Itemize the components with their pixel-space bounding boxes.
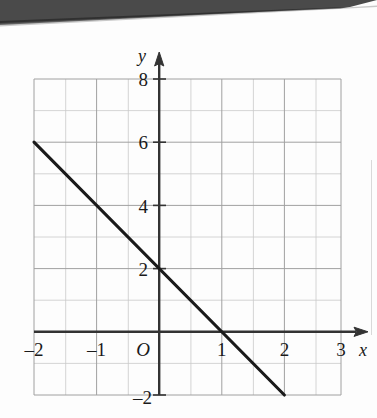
y-tick-label-2: 2 (139, 259, 149, 280)
y-tick-label-8: 8 (139, 69, 149, 90)
x-axis-name: x (358, 340, 367, 360)
y-tick-label-4: 4 (139, 196, 149, 217)
y-axis-name: y (136, 46, 146, 66)
origin-label: O (136, 339, 150, 360)
y-tick-label-6: 6 (139, 132, 149, 153)
y-tick-label--2: –2 (132, 387, 152, 408)
scanned-page: –2 –1 O 1 2 3 8 6 4 2 –2 y x (0, 0, 377, 418)
x-tick-label-3: 3 (336, 339, 346, 360)
x-axis-arrowhead (354, 327, 368, 336)
grid-minor (34, 79, 341, 395)
x-tick-label-2: 2 (280, 339, 290, 360)
x-tick-label-1: 1 (217, 339, 227, 360)
y-axis-arrowhead (155, 52, 164, 66)
axes (34, 52, 368, 395)
coordinate-graph-figure: –2 –1 O 1 2 3 8 6 4 2 –2 y x (0, 0, 377, 418)
x-tick-label--1: –1 (86, 339, 106, 360)
x-tick-label--2: –2 (24, 339, 44, 360)
